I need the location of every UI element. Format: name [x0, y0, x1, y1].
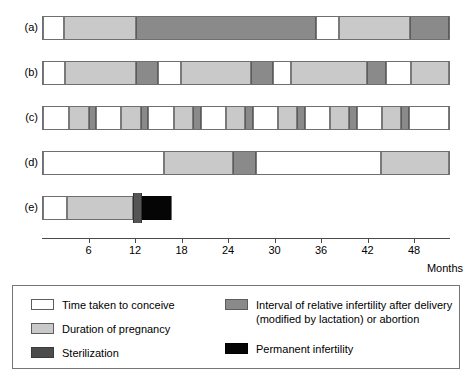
segment-conceive [386, 62, 411, 84]
segment-pregnancy [65, 62, 136, 84]
axis-tick [89, 238, 90, 243]
axis-tick-label: 6 [74, 244, 104, 256]
segment-infertile [349, 107, 357, 129]
timeline-bar [42, 151, 450, 175]
legend-entry-infertile: Interval of relative infertility after d… [225, 298, 452, 326]
axis-tick-label: 48 [399, 244, 429, 256]
legend-swatch-conceive [31, 299, 54, 310]
x-axis: 612182430364248 Months [0, 238, 475, 284]
legend-swatch-steril [31, 347, 54, 358]
segment-infertile [193, 107, 201, 129]
segment-pregnancy [381, 152, 449, 174]
row-label: (d) [8, 145, 38, 179]
segment-infertile [89, 107, 97, 129]
axis-tick [135, 238, 136, 243]
row-label: (b) [8, 55, 38, 89]
timeline-bar [42, 196, 172, 220]
segment-conceive [305, 107, 330, 129]
legend-entry-permanent: Permanent infertility [225, 342, 353, 356]
segment-pregnancy [164, 152, 233, 174]
axis-line [42, 238, 450, 239]
segment-infertile [251, 62, 273, 84]
axis-tick [182, 238, 183, 243]
segment-pregnancy [69, 107, 88, 129]
axis-unit-label: Months [427, 262, 463, 274]
segment-infertile [245, 107, 253, 129]
segment-pregnancy [278, 107, 297, 129]
segment-pregnancy [411, 62, 449, 84]
segment-infertile [401, 107, 409, 129]
legend-label: Sterilization [62, 346, 119, 360]
row-label: (c) [8, 100, 38, 134]
timeline-row: (c) [0, 100, 475, 134]
axis-tick-label: 18 [167, 244, 197, 256]
axis-tick-label: 30 [260, 244, 290, 256]
segment-conceive [158, 62, 180, 84]
segment-conceive [409, 107, 449, 129]
timeline-bar [42, 16, 450, 40]
legend-label: Time taken to conceive [62, 298, 175, 312]
segment-conceive [273, 62, 291, 84]
segment-pregnancy [181, 62, 251, 84]
legend-label: Interval of relative infertility after d… [256, 298, 452, 326]
segment-conceive [253, 107, 278, 129]
legend-label: Permanent infertility [256, 342, 353, 356]
segment-pregnancy [67, 197, 133, 219]
legend-swatch-pregnancy [31, 323, 54, 334]
segment-pregnancy [291, 62, 367, 84]
segment-steril [133, 193, 142, 223]
timeline-row: (a) [0, 10, 475, 44]
segment-infertile [233, 152, 256, 174]
timeline-bar [42, 61, 450, 85]
segment-pregnancy [382, 107, 401, 129]
axis-tick [414, 238, 415, 243]
segment-infertile [141, 107, 149, 129]
segment-conceive [256, 152, 381, 174]
timeline-bar [42, 106, 450, 130]
axis-tick [228, 238, 229, 243]
axis-tick [275, 238, 276, 243]
segment-pregnancy [339, 17, 410, 39]
segment-pregnancy [330, 107, 349, 129]
segment-infertile [410, 17, 449, 39]
segment-conceive [357, 107, 382, 129]
row-label: (a) [8, 10, 38, 44]
legend-entry-pregnancy: Duration of pregnancy [31, 322, 170, 336]
segment-conceive [316, 17, 339, 39]
axis-tick [321, 238, 322, 243]
segment-permanent [142, 196, 171, 220]
axis-tick [368, 238, 369, 243]
segment-infertile [297, 107, 305, 129]
segment-pregnancy [64, 17, 136, 39]
legend-swatch-infertile [225, 299, 248, 310]
timeline-row: (d) [0, 145, 475, 179]
segment-pregnancy [121, 107, 140, 129]
segment-pregnancy [226, 107, 245, 129]
axis-tick-label: 36 [306, 244, 336, 256]
segment-infertile [367, 62, 386, 84]
row-label: (e) [8, 190, 38, 224]
segment-conceive [96, 107, 121, 129]
legend-swatch-permanent [225, 343, 248, 354]
axis-tick-label: 24 [213, 244, 243, 256]
segment-conceive [43, 62, 65, 84]
axis-tick-label: 42 [353, 244, 383, 256]
segment-conceive [148, 107, 174, 129]
segment-infertile [136, 17, 316, 39]
legend-entry-steril: Sterilization [31, 346, 119, 360]
timeline-row: (b) [0, 55, 475, 89]
segment-conceive [201, 107, 226, 129]
segment-conceive [43, 152, 164, 174]
axis-tick-label: 12 [120, 244, 150, 256]
segment-conceive [43, 17, 64, 39]
legend-entry-conceive: Time taken to conceive [31, 298, 175, 312]
timeline-row: (e) [0, 190, 475, 224]
legend-label: Duration of pregnancy [62, 322, 170, 336]
timeline-chart: (a)(b)(c)(d)(e) [0, 0, 475, 240]
segment-conceive [43, 107, 69, 129]
legend: Time taken to conceiveDuration of pregna… [12, 285, 460, 369]
segment-conceive [43, 197, 67, 219]
segment-pregnancy [174, 107, 193, 129]
segment-infertile [136, 62, 158, 84]
